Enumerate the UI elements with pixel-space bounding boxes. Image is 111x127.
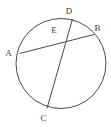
circle-outline (16, 19, 106, 109)
point-label-e: E (51, 25, 57, 35)
geometry-figure: A B C D E (0, 0, 111, 127)
geometry-canvas: A B C D E (0, 0, 111, 127)
chord-a-b (20, 35, 95, 54)
point-label-c: C (40, 113, 46, 123)
point-label-a: A (5, 48, 12, 58)
point-label-d: D (66, 6, 73, 16)
point-label-b: B (94, 23, 100, 33)
